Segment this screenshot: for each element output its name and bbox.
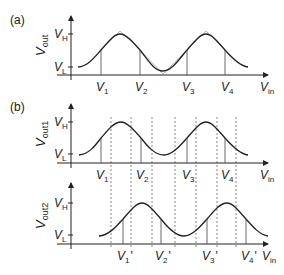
transfer-characteristic-diagram: (a) Vout VH VL V1 V2 V3 V4 Vin (b) [0,0,284,275]
output-curve [78,34,248,71]
plot-vout2: Vout2 VH VL V1' V2' V3' V4' Vin [33,183,276,265]
vl-label: VL [54,60,67,76]
v2-label: V2 [135,80,148,96]
y-axis-label: Vout2 [33,203,50,229]
v3p-label: V3' [202,249,218,265]
plot-vout1: Vout1 VH VL V1 V2 V3 V4 Vin [33,104,274,184]
panel-b: (b) Vout1 VH VL V1 V2 [10,100,276,265]
panel-a-label: (a) [10,13,25,27]
vin-label: Vin [262,249,276,265]
panel-b-label: (b) [10,100,25,114]
vh-label: VH [54,27,68,43]
v1p-label: V1' [117,249,133,265]
y-axis-label: Vout1 [33,121,50,147]
v2p-label: V2' [155,249,171,265]
vin-label: Vin [260,80,274,96]
v3-label: V3 [182,168,195,184]
vh-label: VH [54,196,68,212]
dashed-guides [111,117,236,248]
v1-label: V1 [96,80,109,96]
vh-label: VH [54,115,68,131]
v2-label: V2 [136,168,149,184]
v1-label: V1 [96,168,109,184]
v4p-label: V4' [241,249,257,265]
ideal-curve [101,31,225,74]
v4-label: V4 [221,80,234,96]
vl-label: VL [54,147,67,163]
panel-a: (a) Vout VH VL V1 V2 V3 V4 Vin [10,13,274,96]
vin-label: Vin [260,168,274,184]
v4-label: V4 [221,168,234,184]
vl-label: VL [54,228,67,244]
vout2-curve [99,203,268,236]
vout1-curve [79,122,248,155]
v3-label: V3 [182,80,195,96]
y-axis-label: Vout [33,34,50,56]
